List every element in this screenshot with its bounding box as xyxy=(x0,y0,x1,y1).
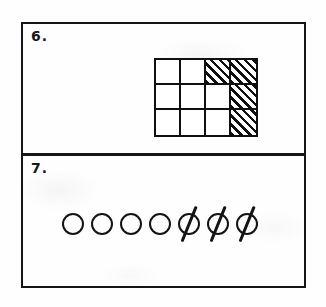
grid-cell-r3c4 xyxy=(231,110,256,135)
grid-cell-r3c1 xyxy=(156,110,181,135)
grid-cell-r1c2 xyxy=(181,60,206,85)
worksheet-page: 6. 7. xyxy=(0,0,326,307)
grid-cell-r1c3 xyxy=(206,60,231,85)
grid-cell-r2c1 xyxy=(156,85,181,110)
circle-counter-1 xyxy=(61,212,85,236)
grid-cell-r3c2 xyxy=(181,110,206,135)
grid-cell-r2c4 xyxy=(231,85,256,110)
problem-number-7: 7. xyxy=(31,161,48,175)
grid-cell-r1c4 xyxy=(231,60,256,85)
circle-icon xyxy=(62,213,84,235)
problem-box-7: 7. xyxy=(21,154,306,288)
grid-cell-r2c3 xyxy=(206,85,231,110)
circle-counter-3 xyxy=(119,212,143,236)
circle-icon xyxy=(149,213,171,235)
grid-cell-r1c1 xyxy=(156,60,181,85)
circle-icon xyxy=(91,213,113,235)
fraction-grid-figure xyxy=(154,58,258,137)
circle-counter-6 xyxy=(206,212,230,236)
grid-cell-r2c2 xyxy=(181,85,206,110)
circle-counter-2 xyxy=(90,212,114,236)
problem-number-6: 6. xyxy=(31,29,48,43)
counter-circle-row xyxy=(61,212,259,236)
grid-cell-r3c3 xyxy=(206,110,231,135)
circle-icon xyxy=(120,213,142,235)
circle-counter-5 xyxy=(177,212,201,236)
problem-box-6: 6. xyxy=(21,22,306,155)
circle-counter-7 xyxy=(235,212,259,236)
circle-counter-4 xyxy=(148,212,172,236)
